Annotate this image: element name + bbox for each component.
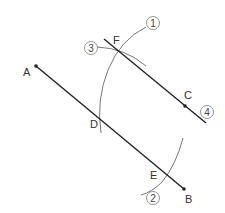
step-2-badge: 2	[147, 192, 160, 205]
step-1-label: 1	[150, 18, 156, 29]
label-a: A	[23, 66, 31, 78]
arc-2	[141, 138, 183, 195]
point-b-dot	[182, 187, 186, 191]
label-c: C	[184, 89, 192, 101]
step-4-badge: 4	[201, 106, 214, 119]
label-d: D	[90, 118, 98, 130]
step-4-label: 4	[204, 107, 210, 118]
point-c-dot	[183, 104, 187, 108]
diagram-canvas: A B C D E F 1 2 3 4	[0, 0, 225, 213]
step-2-label: 2	[150, 193, 156, 204]
label-e: E	[150, 169, 157, 181]
label-f: F	[113, 34, 120, 46]
step-3-badge: 3	[85, 42, 98, 55]
diagram-svg: A B C D E F 1 2 3 4	[0, 0, 225, 213]
line-ab	[36, 66, 184, 189]
line-fc-parallel	[104, 39, 206, 123]
step-1-badge: 1	[147, 17, 160, 30]
step-3-label: 3	[88, 43, 94, 54]
label-b: B	[185, 193, 192, 205]
arc-1	[100, 27, 146, 133]
point-a-dot	[34, 64, 38, 68]
arc-3	[97, 47, 146, 66]
